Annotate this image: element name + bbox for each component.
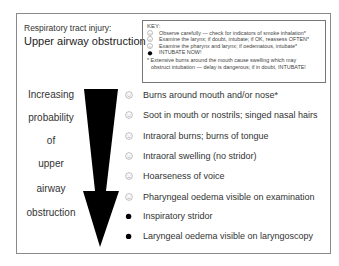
neutral-face-icon — [125, 152, 133, 160]
list-item-label: Intraoral burns; burns of tongue — [143, 131, 269, 141]
smiley-face-icon — [125, 111, 133, 119]
list-item: Inspiratory stridor — [125, 210, 213, 222]
list-item: Laryngeal oedema visible on laryngoscopy — [125, 230, 313, 242]
list-item: Intraoral burns; burns of tongue — [125, 130, 269, 142]
list-item-label: Intraoral swelling (no stridor) — [143, 151, 257, 161]
list-item: Soot in mouth or nostrils; singed nasal … — [125, 109, 318, 121]
list-item: Pharyngeal oedema visible on examination — [125, 191, 315, 203]
list-item-label: Hoarseness of voice — [143, 171, 225, 181]
black-dot-icon — [125, 212, 133, 220]
frown-face-icon — [125, 172, 133, 180]
list-item-label: Burns around mouth and/or nose* — [143, 90, 278, 100]
list-item: Burns around mouth and/or nose* — [125, 89, 278, 101]
smiley-face-icon — [125, 91, 133, 99]
list-item: Intraoral swelling (no stridor) — [125, 150, 257, 162]
list-item-label: Laryngeal oedema visible on laryngoscopy — [143, 231, 313, 241]
list-item: Hoarseness of voice — [125, 170, 225, 182]
black-dot-icon — [125, 232, 133, 240]
list-item-label: Soot in mouth or nostrils; singed nasal … — [143, 110, 318, 120]
list-item-label: Inspiratory stridor — [143, 211, 213, 221]
list-item-label: Pharyngeal oedema visible on examination — [143, 192, 315, 202]
neutral-face-icon — [125, 132, 133, 140]
frown-face-icon — [125, 193, 133, 201]
